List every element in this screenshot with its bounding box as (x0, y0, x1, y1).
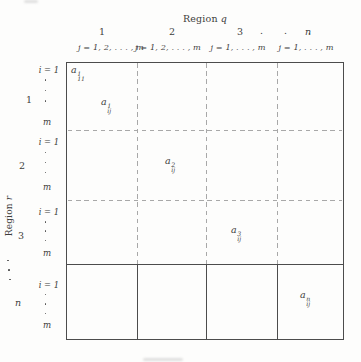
row-2-m-label: m (41, 182, 53, 192)
row-3-ellipsis-dot (45, 221, 47, 223)
column-number-n: n (302, 26, 314, 37)
column-range-2: j = 1, 2, . . . , m (135, 42, 195, 52)
row-divider-dashed-2 (68, 200, 342, 201)
row-3-i-label: i = 1 (33, 207, 59, 217)
cell-aij3-sub: ij (237, 236, 241, 241)
top-axis-title: Regionq (66, 13, 344, 24)
cell-aij1-sub: ij (107, 108, 111, 113)
row-number-1: 1 (23, 94, 35, 105)
cell-a11-superscript1-label: a111 (71, 65, 85, 82)
row-3-ellipsis-dot (45, 230, 47, 232)
row-1-ellipsis-dot (45, 79, 47, 81)
cell-aij-superscript2-label: a2ij (165, 156, 175, 173)
row-axis-ellipsis-dot (8, 269, 10, 271)
row-divider-solid (66, 264, 344, 265)
column-divider-dashed-3 (277, 63, 278, 265)
column-divider-solid-2 (206, 265, 207, 340)
row-n-i-label: i = 1 (33, 280, 59, 290)
cell-a11-base: a (71, 64, 77, 75)
row-1-m-label: m (41, 117, 53, 127)
row-axis-ellipsis-dot (9, 279, 11, 281)
row-2-i-label: i = 1 (33, 137, 59, 147)
column-range-1: j = 1, 2, . . . , m (78, 42, 138, 52)
matrix-partition-figure: Regionq 1 2 3 . . . n j = 1, 2, . . . , … (0, 0, 361, 362)
cell-aijn-sub: ij (306, 301, 310, 306)
row-divider-dashed-1 (68, 130, 342, 131)
cell-aij3-base: a (231, 224, 237, 235)
row-1-i-label: i = 1 (33, 65, 59, 75)
cell-aij-superscript3-label: a3ij (231, 225, 241, 242)
cell-aij2-base: a (165, 155, 171, 166)
left-axis-title: Regionr (4, 183, 14, 249)
cell-a11-sub: 11 (77, 76, 85, 81)
top-axis-title-text: Region (183, 13, 218, 24)
row-number-3: 3 (15, 230, 27, 241)
left-axis-title-text: Region (4, 203, 14, 236)
column-number-2: 2 (166, 26, 178, 37)
cell-aijn-base: a (300, 289, 306, 300)
column-divider-solid-3 (277, 265, 278, 340)
cell-aij2-sub: ij (171, 167, 175, 172)
scan-artifact-top (24, 0, 38, 3)
row-axis-ellipsis-dot (7, 260, 9, 262)
column-divider-dashed-1 (137, 63, 138, 265)
scan-artifact-bottom (143, 358, 183, 361)
row-3-ellipsis-dot (45, 240, 47, 242)
row-n-ellipsis-dot (45, 313, 47, 315)
top-axis-title-var: q (221, 13, 227, 24)
row-1-ellipsis-dot (45, 100, 47, 102)
row-2-ellipsis-dot (45, 162, 47, 164)
row-1-ellipsis-dot (45, 90, 47, 92)
cell-aij-superscript1-label: a1ij (101, 97, 111, 114)
column-divider-solid-1 (137, 265, 138, 340)
column-number-1: 1 (96, 26, 108, 37)
row-number-2: 2 (16, 160, 28, 171)
column-divider-dashed-2 (206, 63, 207, 265)
left-axis-title-var: r (4, 195, 14, 200)
column-number-3: 3 (234, 26, 246, 37)
row-2-ellipsis-dot (45, 152, 47, 154)
row-number-n: n (12, 297, 24, 308)
column-range-n: j = 1, . . . , m (278, 42, 334, 52)
row-2-ellipsis-dot (45, 172, 47, 174)
row-n-m-label: m (41, 320, 53, 330)
cell-aij1-base: a (101, 96, 107, 107)
column-range-3: j = 1, . . . , m (210, 42, 266, 52)
row-n-ellipsis-dot (45, 303, 47, 305)
row-3-m-label: m (41, 248, 53, 258)
cell-aij-superscriptn-label: anij (300, 290, 310, 307)
row-n-ellipsis-dot (45, 294, 47, 296)
